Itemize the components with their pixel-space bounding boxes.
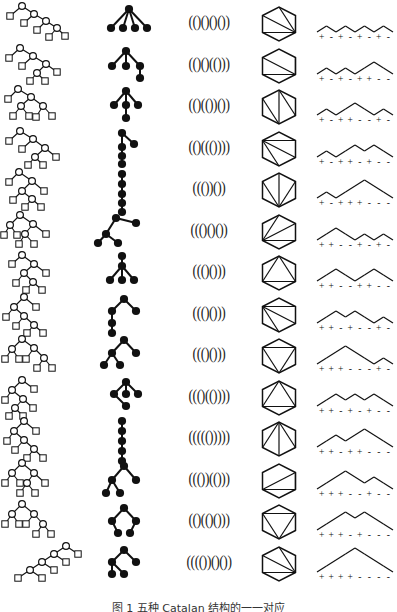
dyck-path: +-++-+-- (313, 127, 397, 167)
svg-text:-: - (387, 572, 390, 582)
svg-text:+: + (338, 115, 343, 125)
svg-text:-: - (349, 32, 352, 42)
table-row: (()((())))+-++-+-- (0, 127, 397, 167)
extended-binary-tree (0, 251, 92, 291)
dyck-path: +++--+-- (313, 459, 397, 499)
ordered-tree (92, 127, 167, 167)
svg-text:+: + (357, 281, 362, 291)
svg-text:+: + (329, 323, 334, 333)
svg-text:+: + (329, 406, 334, 416)
parentheses-string: ((())(())) (189, 469, 230, 489)
svg-text:-: - (377, 530, 380, 540)
svg-text:+: + (348, 447, 353, 457)
svg-text:-: - (349, 364, 352, 374)
svg-text:-: - (358, 323, 361, 333)
parentheses-string: (()()()()) (189, 12, 230, 32)
balanced-parentheses: ((()())) (167, 334, 251, 374)
svg-text:+: + (319, 198, 324, 208)
balanced-parentheses: ((())()) (167, 168, 251, 208)
svg-text:+: + (319, 74, 324, 84)
polygon-triangulation (251, 44, 313, 84)
svg-text:+: + (319, 530, 324, 540)
dyck-path: +++---+- (313, 334, 397, 374)
svg-text:-: - (387, 115, 390, 125)
svg-text:+: + (357, 32, 362, 42)
ordered-tree (92, 459, 167, 499)
svg-text:+: + (338, 489, 343, 499)
svg-text:+: + (319, 489, 324, 499)
svg-text:+: + (357, 198, 362, 208)
balanced-parentheses: ((((())))) (167, 417, 251, 457)
svg-text:-: - (339, 406, 342, 416)
balanced-parentheses: (()((()))) (167, 127, 251, 167)
ordered-tree (92, 251, 167, 291)
svg-text:-: - (349, 240, 352, 250)
extended-binary-tree (0, 459, 92, 499)
ordered-tree (92, 210, 167, 250)
svg-text:-: - (358, 406, 361, 416)
svg-text:-: - (339, 281, 342, 291)
ordered-tree (92, 500, 167, 540)
balanced-parentheses: (((())()()) (167, 542, 251, 582)
svg-text:-: - (387, 157, 390, 167)
svg-text:+: + (376, 364, 381, 374)
svg-text:+: + (348, 406, 353, 416)
svg-text:+: + (338, 364, 343, 374)
parentheses-string: (()()(())) (189, 54, 230, 74)
svg-text:+: + (367, 406, 372, 416)
ordered-tree (92, 376, 167, 416)
parentheses-string: (((())()()) (186, 552, 231, 572)
extended-binary-tree (0, 168, 92, 208)
extended-binary-tree (0, 293, 92, 333)
svg-text:-: - (368, 530, 371, 540)
svg-text:+: + (338, 157, 343, 167)
svg-text:+: + (319, 240, 324, 250)
svg-text:+: + (319, 281, 324, 291)
svg-text:-: - (358, 489, 361, 499)
svg-text:-: - (349, 530, 352, 540)
svg-text:+: + (329, 240, 334, 250)
svg-text:-: - (358, 572, 361, 582)
svg-text:+: + (329, 489, 334, 499)
balanced-parentheses: (()()()()) (167, 2, 251, 42)
svg-text:-: - (377, 489, 380, 499)
svg-text:+: + (348, 198, 353, 208)
svg-text:+: + (329, 364, 334, 374)
table-row: ((()()))++-+--+- (0, 293, 397, 333)
polygon-triangulation (251, 210, 313, 250)
extended-binary-tree (0, 542, 92, 582)
svg-text:+: + (357, 447, 362, 457)
table-row: (()()(()))+-+-++-- (0, 44, 397, 84)
table-row: (()()()())+-+-+-+- (0, 2, 397, 42)
svg-text:-: - (387, 198, 390, 208)
dyck-path: ++--++-- (313, 251, 397, 291)
svg-text:-: - (330, 115, 333, 125)
parentheses-string: ((()()()) (191, 220, 228, 240)
parentheses-string: ((())()) (193, 178, 226, 198)
ordered-tree (92, 417, 167, 457)
svg-text:+: + (329, 281, 334, 291)
dyck-path: +-++--+- (313, 85, 397, 125)
svg-text:-: - (387, 530, 390, 540)
svg-text:-: - (330, 198, 333, 208)
table-row: ((()()))+++---+- (0, 334, 397, 374)
svg-text:+: + (348, 323, 353, 333)
extended-binary-tree (0, 2, 92, 42)
dyck-path: +-+++--- (313, 168, 397, 208)
balanced-parentheses: ((()(()))) (167, 376, 251, 416)
svg-text:+: + (319, 364, 324, 374)
svg-text:-: - (368, 198, 371, 208)
svg-text:-: - (330, 32, 333, 42)
extended-binary-tree (0, 334, 92, 374)
polygon-triangulation (251, 459, 313, 499)
dyck-path: +++-+--- (313, 500, 397, 540)
table-row: ((()(())))++-+-+-- (0, 376, 397, 416)
svg-text:+: + (319, 447, 324, 457)
dyck-path: ++-+--+- (313, 293, 397, 333)
ordered-tree (92, 44, 167, 84)
polygon-triangulation (251, 127, 313, 167)
svg-text:+: + (376, 115, 381, 125)
svg-text:+: + (376, 323, 381, 333)
svg-text:-: - (339, 447, 342, 457)
polygon-triangulation (251, 85, 313, 125)
